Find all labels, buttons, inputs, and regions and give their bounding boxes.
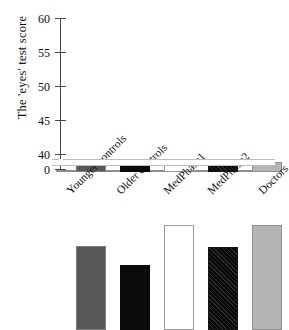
y-axis-line (60, 18, 61, 170)
axis-break-band (52, 159, 275, 166)
y-tick-label-60: 60 (38, 13, 50, 25)
x-category-label-medphase1: MedPhase1 (161, 150, 207, 196)
y-tick-55: 55 (55, 52, 66, 53)
bar-fill-older-controls (120, 265, 150, 330)
y-tick-60: 60 (55, 18, 66, 19)
y-tick-45: 45 (55, 120, 66, 121)
y-tick-label-55: 55 (38, 47, 50, 59)
bar-fill-medphase2 (208, 247, 238, 330)
bar-fill-medphase1 (164, 225, 194, 330)
bar-fill-doctors (252, 225, 282, 330)
y-tick-label-40: 40 (38, 149, 50, 161)
y-axis-label: The 'eyes' test score (15, 0, 30, 148)
y-tick-label-45: 45 (38, 115, 50, 127)
y-tick-40: 40 (55, 154, 66, 155)
plot-area: 60 55 50 45 40 0 (60, 12, 275, 172)
bar-fill-younger-controls (76, 246, 106, 330)
y-tick-label-0: 0 (44, 164, 50, 176)
y-tick-0: 0 (55, 169, 66, 170)
y-tick-label-50: 50 (38, 81, 50, 93)
y-tick-50: 50 (55, 86, 66, 87)
x-category-label-medphase2: MedPhase2 (205, 150, 251, 196)
axis-break-spine-gap (59, 159, 63, 164)
